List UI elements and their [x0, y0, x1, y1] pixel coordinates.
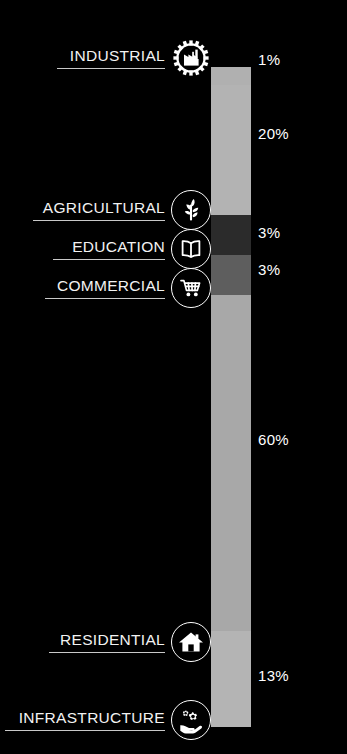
- gear-factory-icon: [171, 38, 211, 78]
- legend-underline-infrastructure: [5, 730, 165, 731]
- legend-label-wrap-education: EDUCATION: [53, 238, 171, 260]
- legend-item-industrial[interactable]: INDUSTRIAL: [0, 38, 211, 78]
- value-label-agricultural: 20%: [258, 125, 289, 142]
- legend-label-education: EDUCATION: [72, 238, 165, 256]
- legend-label-industrial: INDUSTRIAL: [70, 47, 165, 65]
- legend-label-commercial: COMMERCIAL: [57, 277, 165, 295]
- value-label-residential: 60%: [258, 431, 289, 448]
- legend-label-infrastructure: INFRASTRUCTURE: [19, 709, 165, 727]
- shopping-cart-icon: [171, 268, 211, 308]
- legend-label-wrap-infrastructure: INFRASTRUCTURE: [5, 709, 171, 731]
- house-icon: [171, 622, 211, 662]
- bar-segment-residential: [211, 295, 251, 631]
- legend-underline-residential: [49, 652, 165, 653]
- legend-label-wrap-commercial: COMMERCIAL: [45, 277, 171, 299]
- gear-hand-icon: [171, 700, 211, 740]
- value-label-commercial: 3%: [258, 261, 280, 278]
- legend-label-wrap-residential: RESIDENTIAL: [49, 631, 171, 653]
- legend-label-residential: RESIDENTIAL: [60, 631, 165, 649]
- bar-segment-agricultural: [211, 85, 251, 215]
- legend-underline-industrial: [57, 68, 165, 69]
- value-label-industrial: 1%: [258, 51, 280, 68]
- bar-segment-commercial: [211, 255, 251, 295]
- infographic-root: INDUSTRIAL: [0, 0, 347, 754]
- bar-segment-infrastructure: [211, 631, 251, 727]
- bar-segment-industrial: [211, 67, 251, 85]
- legend-item-education[interactable]: EDUCATION: [0, 229, 211, 269]
- open-book-icon: [171, 229, 211, 269]
- value-label-education: 3%: [258, 224, 280, 241]
- legend-item-residential[interactable]: RESIDENTIAL: [0, 622, 211, 662]
- legend-label-wrap-industrial: INDUSTRIAL: [57, 47, 171, 69]
- legend-underline-education: [53, 259, 165, 260]
- value-label-infrastructure: 13%: [258, 667, 289, 684]
- bar-segment-education: [211, 215, 251, 255]
- legend-item-commercial[interactable]: COMMERCIAL: [0, 268, 211, 308]
- legend-label-agricultural: AGRICULTURAL: [43, 199, 165, 217]
- legend-label-wrap-agricultural: AGRICULTURAL: [33, 199, 171, 221]
- legend-item-agricultural[interactable]: AGRICULTURAL: [0, 190, 211, 230]
- legend-underline-commercial: [45, 298, 165, 299]
- legend-underline-agricultural: [33, 220, 165, 221]
- stacked-bar-chart: [211, 67, 251, 727]
- legend-item-infrastructure[interactable]: INFRASTRUCTURE: [0, 700, 211, 740]
- plant-sprout-icon: [171, 190, 211, 230]
